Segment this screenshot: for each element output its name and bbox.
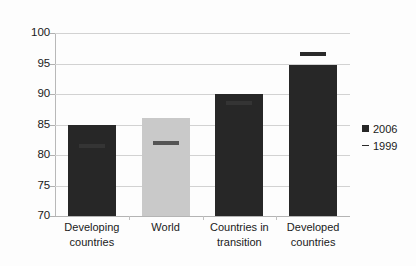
marker-1999-developing-countries <box>79 144 105 148</box>
x-axis-label-line: countries <box>276 235 350 250</box>
legend-square-icon <box>362 125 369 132</box>
legend-dash-icon <box>362 145 369 146</box>
y-axis-tick-mark <box>50 64 55 65</box>
legend-item-1999: 1999 <box>362 137 416 154</box>
x-axis-label-line: Developing <box>55 220 129 235</box>
x-axis-category-label: World <box>129 220 203 235</box>
y-axis-tick-label: 75 <box>16 179 50 191</box>
legend-label: 2006 <box>373 123 397 135</box>
y-axis-tick-mark <box>50 94 55 95</box>
plot-area <box>55 33 350 216</box>
legend-item-2006: 2006 <box>362 120 416 137</box>
y-axis-tick-label: 100 <box>16 26 50 38</box>
x-axis-label-line: Countries in <box>203 220 277 235</box>
y-axis-tick-label: 90 <box>16 87 50 99</box>
bar-countries-in-transition <box>215 94 263 216</box>
chart-legend: 20061999 <box>362 120 416 154</box>
y-axis-tick-label: 80 <box>16 148 50 160</box>
x-axis-category-label: Developingcountries <box>55 220 129 249</box>
y-axis-tick-label: 95 <box>16 57 50 69</box>
bar-developing-countries <box>68 125 116 217</box>
bar-chart: 707580859095100 DevelopingcountriesWorld… <box>0 0 416 266</box>
x-axis-separator-tick <box>203 216 204 220</box>
bar-developed-countries <box>289 65 337 216</box>
y-axis-tick-label: 70 <box>16 209 50 221</box>
x-axis-label-line: World <box>129 220 203 235</box>
y-axis-labels: 707580859095100 <box>8 33 50 216</box>
y-axis-tick-mark <box>50 186 55 187</box>
marker-1999-world <box>153 141 179 145</box>
y-axis-tick-label: 85 <box>16 118 50 130</box>
x-axis-separator-tick <box>276 216 277 220</box>
x-axis-category-label: Countries intransition <box>203 220 277 249</box>
legend-label: 1999 <box>373 140 397 152</box>
x-axis-label-line: transition <box>203 235 277 250</box>
x-axis-category-label: Developedcountries <box>276 220 350 249</box>
gridline-100 <box>55 33 350 34</box>
x-axis-label-line: Developed <box>276 220 350 235</box>
x-axis-separator-tick <box>129 216 130 220</box>
marker-1999-countries-in-transition <box>226 101 252 105</box>
x-axis-labels: DevelopingcountriesWorldCountries intran… <box>55 220 350 264</box>
y-axis-tick-mark <box>50 33 55 34</box>
x-axis-label-line: countries <box>55 235 129 250</box>
bar-world <box>142 118 190 216</box>
y-axis-tick-mark <box>50 155 55 156</box>
marker-1999-developed-countries <box>300 52 326 56</box>
y-axis-tick-mark <box>50 125 55 126</box>
y-axis-tick-mark <box>50 216 55 217</box>
